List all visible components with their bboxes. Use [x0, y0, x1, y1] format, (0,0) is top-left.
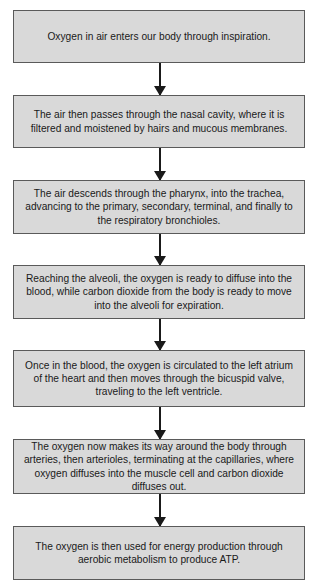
step-box-4: Reaching the alveoli, the oxygen is read… — [13, 265, 305, 319]
step-text: Once in the blood, the oxygen is circula… — [20, 359, 298, 399]
step-box-1: Oxygen in air enters our body through in… — [13, 10, 305, 63]
down-arrow-icon — [159, 494, 161, 526]
down-arrow-icon — [159, 63, 161, 95]
step-text: The oxygen now makes its way around the … — [20, 440, 298, 493]
step-box-2: The air then passes through the nasal ca… — [13, 95, 305, 148]
down-arrow-icon — [159, 234, 161, 265]
down-arrow-icon — [159, 319, 161, 350]
step-text: Reaching the alveoli, the oxygen is read… — [20, 272, 298, 312]
step-text: The air descends through the pharynx, in… — [20, 187, 298, 227]
step-box-7: The oxygen is then used for energy produ… — [13, 526, 305, 580]
step-box-3: The air descends through the pharynx, in… — [13, 180, 305, 234]
step-text: The oxygen is then used for energy produ… — [20, 540, 298, 566]
step-text: The air then passes through the nasal ca… — [20, 108, 298, 134]
step-text: Oxygen in air enters our body through in… — [47, 30, 270, 43]
step-box-5: Once in the blood, the oxygen is circula… — [13, 350, 305, 407]
down-arrow-icon — [159, 407, 161, 439]
step-box-6: The oxygen now makes its way around the … — [13, 439, 305, 494]
down-arrow-icon — [159, 148, 161, 180]
